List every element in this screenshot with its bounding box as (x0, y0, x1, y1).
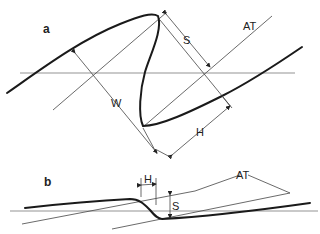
fold-curve-b (25, 199, 310, 219)
fold-curve-a (7, 14, 302, 126)
perp-line-3 (222, 96, 230, 106)
panel-a: a S AT W H (7, 12, 302, 158)
w-label-a: W (111, 97, 122, 109)
s-label-b: S (172, 200, 179, 212)
s-label-a: S (183, 34, 190, 46)
diagram: a S AT W H b H S AT (0, 0, 320, 234)
at-label-a: AT (243, 20, 257, 32)
h-ext-line (157, 150, 172, 158)
axis-line-right-a (143, 16, 272, 127)
panel-a-label: a (43, 22, 50, 36)
h-label-b: H (144, 173, 152, 185)
at-label-b: AT (236, 169, 250, 181)
panel-b: b H S AT (10, 169, 318, 229)
h-label-a: H (196, 126, 204, 138)
at-leader-b (248, 175, 290, 193)
perp-line-1 (160, 20, 232, 108)
panel-b-label: b (44, 175, 51, 189)
